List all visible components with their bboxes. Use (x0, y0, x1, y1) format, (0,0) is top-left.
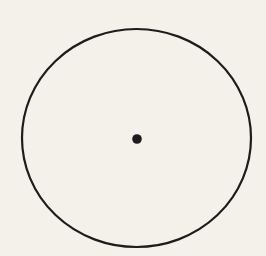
diagram-canvas (0, 0, 266, 256)
circle-diagram (0, 0, 266, 256)
center-point (132, 134, 142, 144)
